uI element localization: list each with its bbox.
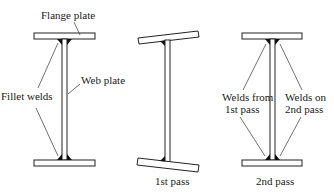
leader-web: [68, 84, 80, 94]
label-flange-plate: Flange plate: [41, 9, 95, 21]
web-plate: [62, 39, 67, 160]
welding-distortion-diagram: Flange plate Web plate Fillet welds 1st …: [0, 0, 334, 194]
flange-plate-top: [34, 33, 95, 39]
flange-plate-top: [242, 33, 302, 39]
weld-second-pass-bottom: [275, 154, 280, 160]
leader-weld-top: [38, 43, 58, 88]
fillet-weld-top-left: [160, 41, 165, 47]
fillet-weld-bottom-left: [160, 156, 165, 162]
label-web-plate: Web plate: [81, 74, 125, 86]
fillet-weld-bottom-right: [67, 154, 72, 160]
label-welds-from: Welds from: [222, 91, 274, 103]
label-welds-from-2: 1st pass: [225, 103, 260, 115]
flange-plate-bottom: [242, 160, 302, 166]
flange-plate-bottom: [34, 160, 95, 166]
weld-second-pass-top: [275, 39, 280, 45]
caption-first-pass: 1st pass: [155, 175, 190, 187]
fillet-weld-top-right: [67, 39, 72, 45]
leader-weld2-top: [280, 44, 302, 90]
weld-first-pass-bottom: [265, 154, 270, 160]
label-fillet-welds: Fillet welds: [1, 90, 53, 102]
web-plate: [165, 40, 170, 162]
caption-second-pass: 2nd pass: [256, 175, 294, 187]
leader-weld1-bottom: [240, 117, 265, 156]
leader-weld2-bottom: [280, 117, 301, 156]
label-welds-on: Welds on: [285, 91, 326, 103]
beam-first-pass: 1st pass: [137, 31, 199, 187]
leader-weld1-top: [243, 44, 266, 90]
beam-second-pass: Welds from 1st pass Welds on 2nd pass 2n…: [222, 33, 326, 187]
label-welds-on-2: 2nd pass: [285, 103, 323, 115]
beam-as-welded: Flange plate Web plate Fillet welds: [1, 9, 125, 166]
leader-weld-bottom: [36, 108, 58, 156]
